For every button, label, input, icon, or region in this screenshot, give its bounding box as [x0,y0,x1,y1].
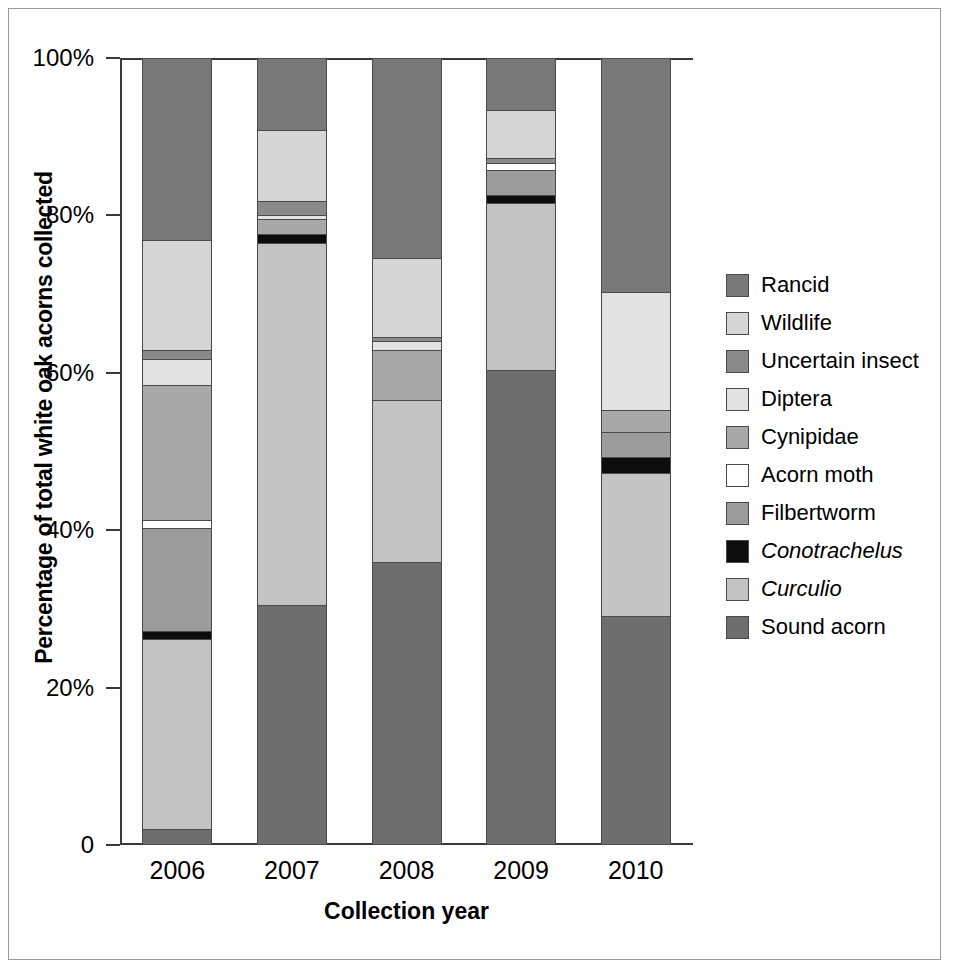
bar-segment-2009-filbertworm[interactable] [486,170,556,195]
legend-item-sound-acorn[interactable]: Sound acorn [726,608,946,646]
bar-segment-2010-cynipidae[interactable] [601,410,671,432]
bar-segment-2010-sound-acorn[interactable] [601,616,671,845]
bar-2006[interactable] [142,58,212,845]
legend-label: Cynipidae [761,426,859,448]
legend-item-filbertworm[interactable]: Filbertworm [726,494,946,532]
legend-swatch-icon [726,578,749,601]
legend-swatch-icon [726,274,749,297]
bar-2007[interactable] [257,58,327,845]
bar-segment-2006-curculio[interactable] [142,639,212,829]
bar-segment-2010-rancid[interactable] [601,58,671,292]
y-axis-tick [106,687,120,689]
y-axis-tick [106,57,120,59]
bar-segment-2008-rancid[interactable] [372,58,442,258]
legend-item-rancid[interactable]: Rancid [726,266,946,304]
bar-segment-2009-wildlife[interactable] [486,110,556,158]
y-axis-tick [106,372,120,374]
y-axis-tick-label: 0 [0,831,94,859]
y-axis-tick [106,529,120,531]
chart-legend: RancidWildlifeUncertain insectDipteraCyn… [726,266,946,646]
legend-swatch-icon [726,426,749,449]
legend-label: Curculio [761,578,842,600]
bar-segment-2009-acorn-moth[interactable] [486,163,556,170]
legend-item-uncertain-insect[interactable]: Uncertain insect [726,342,946,380]
legend-swatch-icon [726,502,749,525]
x-axis-tick-label-2010: 2010 [576,856,696,885]
bar-segment-2007-cynipidae[interactable] [257,219,327,234]
bar-segment-2008-curculio[interactable] [372,400,442,563]
bar-segment-2006-diptera[interactable] [142,359,212,385]
bar-segment-2006-wildlife[interactable] [142,240,212,350]
bar-segment-2006-sound-acorn[interactable] [142,829,212,845]
bar-segment-2009-uncertain-insect[interactable] [486,158,556,163]
bar-segment-2006-filbertworm[interactable] [142,528,212,631]
legend-label: Sound acorn [761,616,886,638]
bar-segment-2007-diptera[interactable] [257,215,327,220]
bar-segment-2008-wildlife[interactable] [372,258,442,337]
bar-segment-2010-curculio[interactable] [601,473,671,616]
bar-segment-2007-sound-acorn[interactable] [257,605,327,845]
x-axis-tick-label-2008: 2008 [347,856,467,885]
y-axis-tick [106,214,120,216]
legend-label: Filbertworm [761,502,876,524]
legend-label: Conotrachelus [761,540,903,562]
x-axis-tick-label-2009: 2009 [461,856,581,885]
bar-segment-2007-curculio[interactable] [257,243,327,605]
bar-segment-2009-curculio[interactable] [486,203,556,371]
legend-swatch-icon [726,350,749,373]
legend-label: Rancid [761,274,829,296]
bar-segment-2008-cynipidae[interactable] [372,350,442,400]
legend-swatch-icon [726,540,749,563]
legend-label: Diptera [761,388,832,410]
bar-segment-2007-wildlife[interactable] [257,130,327,201]
legend-swatch-icon [726,464,749,487]
legend-label: Uncertain insect [761,350,919,372]
legend-label: Wildlife [761,312,832,334]
bar-segment-2006-cynipidae[interactable] [142,385,212,520]
legend-swatch-icon [726,312,749,335]
bar-segment-2008-diptera[interactable] [372,341,442,350]
bar-segment-2007-uncertain-insect[interactable] [257,201,327,214]
bar-segment-2007-rancid[interactable] [257,58,327,130]
bar-segment-2006-conotrachelus[interactable] [142,631,212,639]
stacked-bar-chart: 020%40%60%80%100% Percentage of total wh… [0,0,953,976]
legend-item-curculio[interactable]: Curculio [726,570,946,608]
y-axis-title: Percentage of total white oak acorns col… [31,38,58,798]
bar-segment-2009-rancid[interactable] [486,58,556,110]
legend-item-wildlife[interactable]: Wildlife [726,304,946,342]
legend-item-diptera[interactable]: Diptera [726,380,946,418]
legend-swatch-icon [726,388,749,411]
x-axis-tick-label-2006: 2006 [117,856,237,885]
legend-item-acorn-moth[interactable]: Acorn moth [726,456,946,494]
y-axis-tick [106,844,120,846]
bar-segment-2009-conotrachelus[interactable] [486,195,556,203]
bar-2010[interactable] [601,58,671,845]
bar-segment-2006-acorn-moth[interactable] [142,520,212,528]
bar-2009[interactable] [486,58,556,845]
legend-item-cynipidae[interactable]: Cynipidae [726,418,946,456]
bar-segment-2010-filbertworm[interactable] [601,432,671,457]
bar-segment-2006-uncertain-insect[interactable] [142,350,212,359]
bar-segment-2010-conotrachelus[interactable] [601,457,671,473]
bar-segment-2006-rancid[interactable] [142,58,212,240]
bar-segment-2008-sound-acorn[interactable] [372,562,442,845]
legend-label: Acorn moth [761,464,874,486]
legend-swatch-icon [726,616,749,639]
bar-segment-2009-sound-acorn[interactable] [486,370,556,845]
bar-segment-2007-conotrachelus[interactable] [257,234,327,243]
x-axis-tick-label-2007: 2007 [232,856,352,885]
bar-segment-2008-uncertain-insect[interactable] [372,337,442,341]
x-axis-title: Collection year [120,898,693,925]
bar-segment-2010-diptera[interactable] [601,292,671,410]
bar-2008[interactable] [372,58,442,845]
legend-item-conotrachelus[interactable]: Conotrachelus [726,532,946,570]
